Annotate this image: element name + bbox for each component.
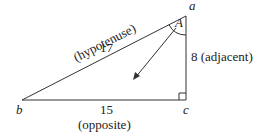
vertex-a-label: a — [189, 0, 196, 13]
adjacent-label: 8 (adjacent) — [191, 49, 253, 64]
right-angle-marker — [179, 93, 186, 100]
angle-A-label: A — [174, 15, 183, 30]
triangle-diagram: a A b c 17 (hypotenuse) 8 (adjacent) 15 … — [0, 0, 261, 135]
vertex-b-label: b — [16, 102, 23, 117]
hypotenuse-side — [22, 16, 186, 100]
opposite-role: (opposite) — [78, 117, 131, 132]
vertex-c-label: c — [183, 102, 189, 117]
arrow-line — [135, 28, 176, 78]
opposite-length: 15 — [100, 102, 113, 117]
